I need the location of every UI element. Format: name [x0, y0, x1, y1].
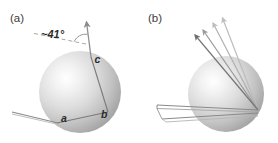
incoming-ray-b-bend — [157, 109, 162, 120]
incoming-ray-b-bend2 — [162, 119, 166, 122]
sphere-b — [188, 56, 264, 132]
point-label-b: b — [101, 108, 108, 120]
panel-label-a: (a) — [10, 12, 24, 24]
angle-arc-a — [74, 34, 88, 41]
sphere-a — [39, 51, 121, 133]
panel-b: (b) — [148, 12, 264, 132]
panel-label-b: (b) — [148, 12, 162, 24]
figure-container: (a) ~41° a b c — [0, 0, 278, 143]
figure-canvas: (a) ~41° a b c — [0, 0, 278, 143]
point-label-c: c — [95, 53, 101, 65]
panel-a: (a) ~41° a b c — [10, 12, 121, 133]
point-label-a: a — [61, 112, 67, 124]
angle-label-a: ~41° — [41, 28, 65, 40]
